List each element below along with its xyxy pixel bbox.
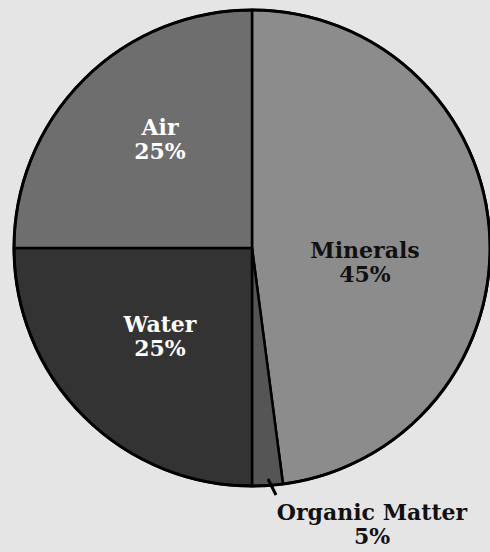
slice-water bbox=[14, 248, 252, 486]
label-air-name: Air bbox=[105, 115, 215, 139]
label-minerals-name: Minerals bbox=[290, 238, 440, 262]
label-water: Water 25% bbox=[100, 312, 220, 360]
label-organic-name: Organic Matter bbox=[262, 500, 482, 524]
label-water-pct: 25% bbox=[100, 336, 220, 360]
label-minerals-pct: 45% bbox=[290, 262, 440, 286]
label-water-name: Water bbox=[100, 312, 220, 336]
label-organic-pct: 5% bbox=[262, 524, 482, 548]
label-air: Air 25% bbox=[105, 115, 215, 163]
label-minerals: Minerals 45% bbox=[290, 238, 440, 286]
label-organic-matter: Organic Matter 5% bbox=[262, 500, 482, 548]
label-air-pct: 25% bbox=[105, 139, 215, 163]
